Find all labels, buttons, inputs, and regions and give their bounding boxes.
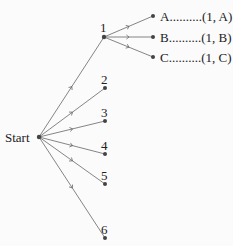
edge-1-A [104, 16, 153, 37]
label-node-6: 6 [101, 223, 108, 236]
outcome-C: C..........(1, C) [160, 51, 232, 64]
node-start [37, 135, 41, 139]
node-A [151, 14, 155, 18]
edge-start-1 [39, 37, 104, 137]
label-node-5: 5 [101, 169, 108, 182]
edge-start-6 [39, 137, 105, 238]
edge-start-2 [39, 88, 105, 137]
label-node-2: 2 [101, 73, 108, 86]
outcome-B: B..........(1, B) [160, 31, 232, 44]
node-B [151, 35, 155, 39]
edge-start-5 [39, 137, 105, 184]
node-1 [102, 35, 106, 39]
label-node-3: 3 [101, 106, 108, 119]
edge-1-C [104, 37, 153, 57]
label-node-4: 4 [101, 139, 108, 152]
label-node-1: 1 [100, 21, 107, 34]
edge-start-3 [39, 121, 105, 137]
label-start: Start [5, 131, 30, 144]
node-C [151, 55, 155, 59]
outcome-A: A..........(1, A) [160, 10, 232, 23]
